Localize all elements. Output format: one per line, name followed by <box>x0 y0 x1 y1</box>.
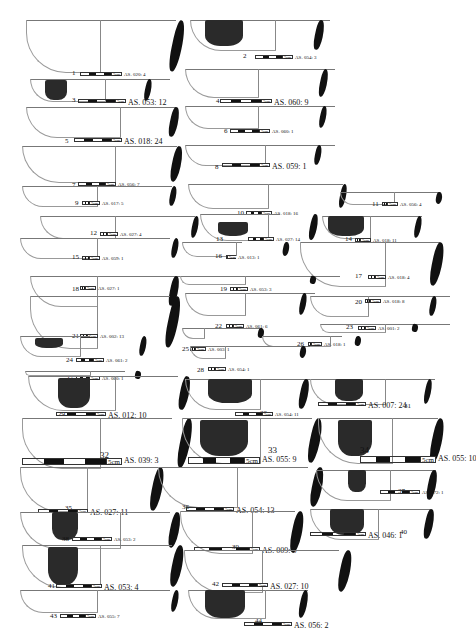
scale-bar: 5cm <box>220 99 272 103</box>
decoration-fill <box>335 379 363 401</box>
sherd-number: 16 <box>215 253 222 260</box>
section-profile <box>170 238 180 259</box>
section-profile <box>307 214 319 241</box>
section-profile <box>428 241 447 286</box>
sherd-number: 12 <box>90 230 97 237</box>
inventory-code: AS. 061: 6 <box>246 324 268 330</box>
vessel-outline <box>320 324 386 333</box>
scale-bar: 5cm <box>78 99 126 103</box>
axis-line <box>258 106 259 128</box>
axis-line <box>237 467 238 507</box>
vessel-outline <box>188 184 269 209</box>
sherd-number: 15 <box>72 254 79 261</box>
section-profile <box>422 379 433 405</box>
section-profile <box>336 549 355 592</box>
scale-bar: 5cm <box>255 55 293 59</box>
vessel-outline <box>185 106 259 129</box>
section-profile <box>354 335 362 346</box>
section-profile <box>282 242 291 257</box>
section-profile <box>168 145 184 182</box>
inventory-code: AS. 053: 2 <box>114 537 136 543</box>
section-profile <box>411 323 419 332</box>
scale-unit: 5cm <box>409 491 419 493</box>
section-profile <box>312 20 326 51</box>
inventory-code: AS. 009: 5 <box>262 547 296 555</box>
scale-bar: 5cm <box>230 129 270 133</box>
sherd-number: 8 <box>215 164 219 171</box>
sherd-number: 25 <box>182 346 189 353</box>
scale-unit: 5cm <box>257 584 267 586</box>
inventory-code: AS. 018: 1 <box>324 342 346 348</box>
inventory-code: AS. 046: 1 <box>368 532 402 540</box>
sherd-number: 38 <box>62 536 69 543</box>
scale-bar: 5cm <box>60 614 96 618</box>
inventory-code: AS. 059: 1 <box>272 163 306 171</box>
scale-bar: 5cm <box>308 342 322 346</box>
scale-bar: 5cm <box>358 326 376 330</box>
scale-bar: 5cm <box>74 138 122 142</box>
vessel-outline <box>26 20 101 73</box>
sherd-number: 23 <box>346 324 353 331</box>
section-profile <box>413 216 423 239</box>
decoration-fill <box>205 20 243 46</box>
scale-bar: 5cm <box>226 255 236 259</box>
sherd-number: 4 <box>216 98 220 105</box>
scale-unit: 5cm <box>244 458 259 463</box>
scale-bar: 5cm <box>100 232 118 236</box>
axis-line <box>87 467 88 511</box>
scale-unit: 5cm <box>259 164 269 166</box>
decoration-fill <box>35 338 63 348</box>
sherd-number: 20 <box>355 299 362 306</box>
section-profile <box>435 192 443 205</box>
section-profile <box>422 509 436 540</box>
vessel-outline <box>180 276 246 285</box>
vessel-outline <box>20 467 88 512</box>
section-profile <box>167 107 181 138</box>
sherd-number: 17 <box>355 273 362 280</box>
section-profile <box>313 145 323 166</box>
scale-unit: 5cm <box>106 459 121 464</box>
vessel-outline <box>22 146 116 183</box>
inventory-code: AS. 007: 24 <box>368 402 406 410</box>
axis-line <box>258 69 259 97</box>
axis-line <box>245 293 246 315</box>
sherd-number: 11 <box>372 201 379 208</box>
inventory-code: AS. 072: 1 <box>422 490 444 496</box>
axis-line <box>90 371 91 375</box>
vessel-outline <box>185 69 259 98</box>
axis-line <box>100 545 101 587</box>
scale-unit: 5cm <box>95 413 105 415</box>
scale-bar: 5cm <box>368 275 386 279</box>
scale-bar: 5cm <box>76 358 104 362</box>
scale-bar: 5cm <box>244 622 292 626</box>
section-profile <box>428 296 438 317</box>
scale-unit: 5cm <box>365 327 375 329</box>
decoration-fill <box>348 470 366 492</box>
inventory-code: AS. 017: 5 <box>102 201 124 207</box>
scale-bar: 5cm <box>318 402 366 406</box>
scale-unit: 5cm <box>263 238 273 240</box>
inventory-code: AS. 018: 24 <box>124 138 162 146</box>
section-profile <box>168 186 178 207</box>
inventory-code: AS. 056: 4 <box>400 202 422 208</box>
inventory-code: AS. 055: 10 <box>438 455 476 463</box>
axis-line <box>105 79 106 101</box>
axis-line <box>97 590 98 612</box>
scale-bar: 5cm <box>22 458 122 465</box>
axis-line <box>100 20 101 72</box>
vessel-outline <box>182 328 205 339</box>
scale-bar: 5cm <box>382 202 398 206</box>
scale-unit: 5cm <box>223 508 233 510</box>
sherd-number: 19 <box>220 286 227 293</box>
scale-bar: 5cm <box>248 237 274 241</box>
axis-line <box>97 238 98 258</box>
vessel-outline <box>190 346 226 359</box>
scale-bar: 5cm <box>82 256 100 260</box>
inventory-code: AS. 061: 2 <box>106 358 128 364</box>
inventory-code: AS. 020: 4 <box>124 72 146 78</box>
section-profile <box>317 69 330 98</box>
sherd-number: 33 <box>268 447 277 454</box>
scale-unit: 5cm <box>355 403 365 405</box>
sherd-number: 1 <box>72 70 76 77</box>
scale-bar: 5cm <box>188 457 260 464</box>
